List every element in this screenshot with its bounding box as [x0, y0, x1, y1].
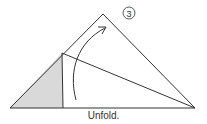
- origami-diagram: 3: [0, 0, 207, 124]
- caption: Unfold.: [0, 110, 207, 121]
- step-number: 3: [126, 9, 131, 19]
- fold-line-diagonal: [62, 53, 195, 108]
